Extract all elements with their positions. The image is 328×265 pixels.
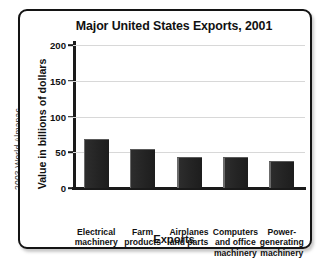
chart-figure: 2003 World Almanac Major United States E… [0,0,328,265]
y-tick-mark [68,151,73,153]
x-tick-label-line: machinery [256,248,308,258]
gridline [73,117,305,118]
chart-frame: Major United States Exports, 2001 Value … [18,9,312,249]
y-tick-mark [68,116,73,118]
gridline [73,45,305,46]
y-tick-label: 100 [50,111,66,122]
y-tick-mark [68,187,73,189]
bar [130,149,155,188]
bar [269,161,294,188]
y-tick-label: 150 [50,75,66,86]
y-axis-title: Value in billions of dollars [36,49,52,199]
gridline [73,81,305,82]
x-tick-label-line: machinery [209,248,261,258]
chart-title: Major United States Exports, 2001 [50,19,298,33]
y-tick-mark [68,80,73,82]
plot-area: 050100150200ElectricalmachineryFarmprodu… [73,45,305,188]
x-axis-title: Exports [50,233,298,245]
y-tick-mark [68,44,73,46]
bar [223,157,248,188]
y-tick-label: 200 [50,40,66,51]
y-tick-label: 50 [55,147,66,158]
bar [177,157,202,188]
bar [84,139,109,188]
y-tick-label: 0 [61,183,66,194]
